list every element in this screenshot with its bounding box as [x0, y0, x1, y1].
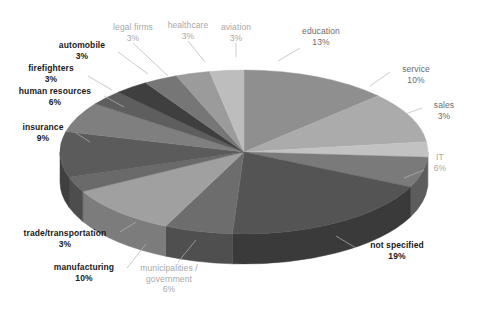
label-trade-transportation: trade/transportation 3% — [12, 228, 118, 249]
label-firefighters-percent: 3% — [14, 74, 88, 85]
label-education-percent: 13% — [290, 37, 352, 48]
label-service-percent: 10% — [392, 75, 440, 86]
label-healthcare: healthcare 3% — [157, 20, 219, 41]
leader-line — [118, 52, 148, 74]
leader-line — [370, 72, 390, 86]
label-aviation: aviation 3% — [212, 22, 260, 43]
label-education-name: education — [302, 26, 340, 36]
pie-chart-page: legal firms 3% healthcare 3% aviation 3%… — [0, 0, 487, 316]
label-sales: sales 3% — [424, 100, 464, 121]
label-service-name: service — [402, 64, 430, 74]
label-trade-name: trade/transportation — [24, 228, 107, 238]
label-aviation-percent: 3% — [212, 33, 260, 44]
label-municipalities-name2: government — [132, 274, 206, 285]
label-healthcare-percent: 3% — [157, 31, 219, 42]
label-automobile-percent: 3% — [46, 51, 118, 62]
pie-chart-figure: legal firms 3% healthcare 3% aviation 3%… — [0, 0, 487, 316]
label-manufacturing-name: manufacturing — [54, 262, 114, 272]
label-manufacturing: manufacturing 10% — [42, 262, 126, 283]
label-it-percent: 6% — [426, 163, 454, 174]
label-service: service 10% — [392, 64, 440, 85]
label-human-resources: human resources 6% — [4, 86, 106, 107]
label-aviation-name: aviation — [221, 22, 251, 32]
leader-line — [278, 48, 300, 61]
label-it-name: IT — [436, 152, 444, 162]
label-municipalities-percent: 6% — [132, 284, 206, 295]
label-sales-percent: 3% — [424, 111, 464, 122]
label-it: IT 6% — [426, 152, 454, 173]
label-firefighters: firefighters 3% — [14, 63, 88, 84]
leader-line — [188, 41, 205, 62]
label-not-specified: not specified 19% — [358, 240, 436, 261]
label-municipalities-government: municipalities / government 6% — [132, 263, 206, 295]
label-firefighters-name: firefighters — [28, 63, 74, 73]
label-healthcare-name: healthcare — [168, 20, 209, 30]
label-trade-percent: 3% — [12, 239, 118, 250]
label-human-resources-name: human resources — [19, 86, 91, 96]
label-automobile-name: automobile — [59, 40, 105, 50]
label-not-specified-name: not specified — [370, 240, 424, 250]
label-human-resources-percent: 6% — [4, 97, 106, 108]
label-legal-firms-name: legal firms — [113, 22, 153, 32]
label-sales-name: sales — [434, 100, 454, 110]
label-education: education 13% — [290, 26, 352, 47]
label-manufacturing-percent: 10% — [42, 273, 126, 284]
pie-top-faces — [60, 70, 428, 234]
label-insurance-percent: 9% — [12, 133, 74, 144]
label-not-specified-percent: 19% — [358, 251, 436, 262]
label-insurance-name: insurance — [22, 122, 63, 132]
leader-line — [133, 43, 168, 76]
label-municipalities-name: municipalities / — [140, 263, 197, 273]
label-insurance: insurance 9% — [12, 122, 74, 143]
label-automobile: automobile 3% — [46, 40, 118, 61]
